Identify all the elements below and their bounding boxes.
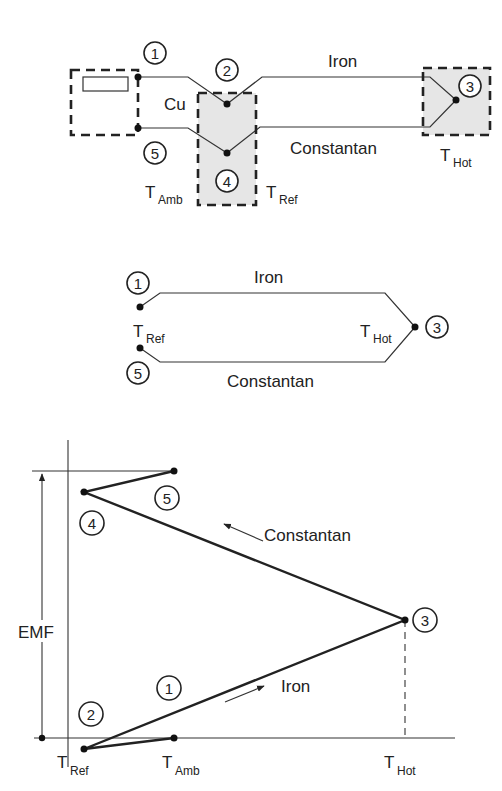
iron-wire (140, 293, 415, 327)
svg-text:T: T (384, 753, 394, 772)
junction-3-dot (453, 97, 460, 104)
constantan-label: Constantan (290, 139, 377, 158)
t-ref-label: T Ref (266, 183, 298, 207)
point-5-label: 5 (155, 486, 179, 510)
simplified-circuit-diagram: 1 3 5 Iron Constantan T Ref T Hot (127, 268, 448, 391)
point-3-label: 3 (459, 75, 481, 97)
emf-label: EMF (18, 623, 54, 642)
point-5-label: 5 (144, 142, 166, 164)
svg-text:Ref: Ref (146, 332, 165, 346)
point-1-label: 1 (144, 42, 166, 64)
svg-text:5: 5 (134, 365, 142, 382)
emf-path (84, 471, 405, 749)
terminal-5-dot (135, 125, 142, 132)
svg-text:3: 3 (421, 612, 429, 629)
point-1-label: 1 (157, 676, 181, 700)
svg-text:2: 2 (223, 62, 231, 79)
point-1-label: 1 (127, 272, 149, 294)
constantan-direction-arrow (224, 524, 263, 541)
point-2-label: 2 (216, 59, 238, 81)
point-3-label: 3 (426, 316, 448, 338)
svg-text:Hot: Hot (373, 332, 392, 346)
point-3-label: 3 (413, 608, 437, 632)
emf-arrow-base-dot (39, 735, 45, 741)
junction-2-dot (224, 101, 231, 108)
svg-text:Hot: Hot (397, 764, 416, 778)
point-5-label: 5 (127, 362, 149, 384)
point-2-dot (81, 746, 88, 753)
svg-text:T: T (266, 183, 276, 202)
svg-text:Hot: Hot (453, 156, 472, 170)
point-2-label: 2 (79, 702, 103, 726)
meter-display (83, 77, 128, 91)
t-ref-tick-label: T Ref (57, 753, 89, 778)
svg-text:3: 3 (466, 78, 474, 95)
point-3-dot (402, 617, 409, 624)
t-hot-label: T Hot (360, 322, 392, 346)
svg-text:Amb: Amb (158, 193, 183, 207)
svg-text:1: 1 (151, 45, 159, 62)
iron-wire (227, 77, 456, 104)
svg-text:5: 5 (151, 145, 159, 162)
svg-text:5: 5 (163, 490, 171, 507)
point-5-dot (171, 468, 178, 475)
svg-text:Ref: Ref (279, 193, 298, 207)
terminal-1-dot (135, 74, 142, 81)
t-hot-label: T Hot (440, 146, 472, 170)
constantan-label: Constantan (227, 372, 314, 391)
svg-text:3: 3 (433, 319, 441, 336)
svg-text:T: T (360, 322, 370, 341)
t-amb-label: T Amb (145, 183, 183, 207)
t-hot-tick-label: T Hot (384, 753, 416, 778)
iron-direction-arrow (225, 686, 264, 702)
svg-text:T: T (162, 753, 172, 772)
iron-label: Iron (281, 677, 310, 696)
svg-text:1: 1 (134, 275, 142, 292)
iron-label: Iron (328, 52, 357, 71)
top-circuit-diagram: 1 2 3 4 5 Cu Iron Constantan T Amb T Ref (71, 42, 490, 207)
point-4-label: 4 (216, 170, 238, 192)
copper-label: Cu (164, 95, 186, 114)
svg-text:Amb: Amb (175, 764, 200, 778)
svg-text:1: 1 (165, 680, 173, 697)
iron-label: Iron (254, 268, 283, 287)
point-4-dot (81, 489, 88, 496)
svg-text:4: 4 (88, 515, 96, 532)
svg-text:T: T (440, 146, 450, 165)
t-ref-label: T Ref (133, 322, 165, 346)
constantan-label: Constantan (264, 526, 351, 545)
svg-text:2: 2 (87, 706, 95, 723)
terminal-5-dot (137, 345, 144, 352)
emf-temperature-graph: EMF 1 2 3 4 5 (16, 440, 455, 778)
svg-text:4: 4 (223, 173, 231, 190)
svg-text:T: T (145, 183, 155, 202)
terminal-1-dot (137, 304, 144, 311)
svg-text:T: T (133, 322, 143, 341)
hot-junction-dot (412, 324, 419, 331)
t-amb-tick-label: T Amb (162, 753, 200, 778)
thermocouple-figure: 1 2 3 4 5 Cu Iron Constantan T Amb T Ref (0, 0, 502, 791)
point-4-label: 4 (80, 511, 104, 535)
svg-text:T: T (57, 753, 67, 772)
svg-text:Ref: Ref (70, 764, 89, 778)
junction-4-dot (224, 150, 231, 157)
t-amb-dot (171, 735, 178, 742)
